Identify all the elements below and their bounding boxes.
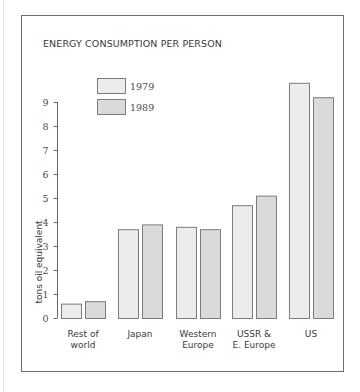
x-tick-label: Rest of [67, 329, 99, 339]
legend-swatch-1979 [98, 79, 126, 94]
bar-1989 [86, 302, 106, 319]
legend-label: 1979 [130, 81, 154, 92]
legend-label: 1989 [130, 102, 154, 113]
x-tick-label: Europe [182, 340, 214, 350]
y-axis: 0123456789 [42, 97, 57, 324]
bar-1989 [257, 196, 277, 318]
chart: ENERGY CONSUMPTION PER PERSON 19791989 0… [0, 0, 360, 392]
x-tick-label: USSR & [237, 329, 271, 339]
bar-1989 [201, 230, 221, 319]
x-tick-label: world [71, 340, 96, 350]
y-tick-label: 0 [42, 313, 48, 324]
bar-1979 [233, 206, 253, 319]
x-tick-label: E. Europe [232, 340, 276, 350]
legend: 19791989 [98, 79, 155, 115]
y-tick-label: 8 [42, 121, 48, 132]
y-tick-label: 6 [42, 169, 48, 180]
legend-swatch-1989 [98, 100, 126, 115]
x-tick-label: Western [180, 329, 217, 339]
y-tick-label: 9 [42, 97, 48, 108]
x-tick-label: Japan [126, 329, 152, 339]
bar-1979 [290, 83, 310, 318]
bar-1979 [177, 227, 197, 318]
x-tick-label: US [305, 329, 318, 339]
y-tick-label: 7 [42, 145, 48, 156]
bar-1979 [62, 304, 82, 318]
bar-1989 [143, 225, 163, 319]
y-axis-label: tons oil equivalent [34, 220, 44, 304]
y-tick-label: 5 [42, 193, 48, 204]
bar-1979 [119, 230, 139, 319]
chart-title: ENERGY CONSUMPTION PER PERSON [43, 38, 222, 49]
bar-1989 [314, 98, 334, 319]
x-axis-labels: Rest ofworldJapanWesternEuropeUSSR &E. E… [67, 329, 317, 350]
bars [62, 83, 334, 318]
